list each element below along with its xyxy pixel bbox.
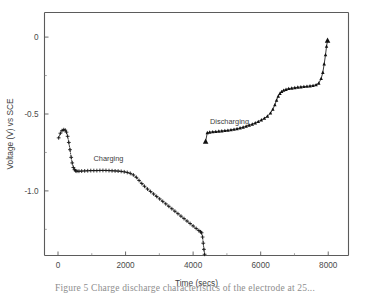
curve-label: Discharging xyxy=(210,117,249,126)
y-tick-label: -1.0 xyxy=(24,187,39,196)
data-point xyxy=(317,81,320,84)
x-tick-label: 6000 xyxy=(252,261,271,270)
x-axis-ticks xyxy=(58,252,328,256)
x-tick-label: 0 xyxy=(56,261,61,270)
data-point xyxy=(322,62,325,65)
x-tick-label: 2000 xyxy=(116,261,135,270)
data-point xyxy=(275,98,278,101)
x-tick-label: 4000 xyxy=(184,261,203,270)
y-axis-title: Voltage (V) vs SCE xyxy=(5,98,15,169)
data-point xyxy=(324,53,327,56)
data-point xyxy=(325,44,328,47)
curve-label: Charging xyxy=(93,154,123,163)
y-axis-ticks xyxy=(45,37,49,229)
x-axis-tick-labels: 02000400060008000 xyxy=(56,261,338,270)
data-point xyxy=(319,77,322,80)
chart-canvas: 02000400060008000 0-0.5-1.0 ChargingDisc… xyxy=(0,0,370,296)
figure-container: 02000400060008000 0-0.5-1.0 ChargingDisc… xyxy=(0,0,370,296)
data-point xyxy=(321,71,324,74)
series-charging xyxy=(57,128,207,256)
data-point xyxy=(273,103,276,106)
series-discharging xyxy=(203,37,330,143)
data-series-layer xyxy=(57,37,331,256)
data-point xyxy=(263,116,266,119)
data-point xyxy=(271,107,274,110)
x-tick-label: 8000 xyxy=(319,261,338,270)
series-path xyxy=(59,130,205,255)
y-tick-label: 0 xyxy=(34,33,39,42)
y-axis-tick-labels: 0-0.5-1.0 xyxy=(24,33,39,196)
axes-frame xyxy=(45,13,349,256)
y-tick-label: -0.5 xyxy=(24,110,39,119)
data-point xyxy=(203,138,209,143)
figure-caption: Figure 5 Charge discharge characteristic… xyxy=(0,283,370,293)
series-path xyxy=(206,40,328,141)
data-point xyxy=(325,37,331,42)
curve-annotations: ChargingDischarging xyxy=(93,117,249,163)
